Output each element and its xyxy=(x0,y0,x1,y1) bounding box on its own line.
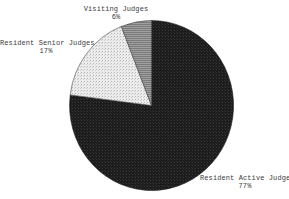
label-visiting-pct: 6% xyxy=(76,13,156,21)
label-senior-name: Resident Senior Judges xyxy=(0,39,92,47)
label-visiting-name: Visiting Judges xyxy=(76,5,156,13)
label-visiting-judges: Visiting Judges 6% xyxy=(76,5,156,21)
label-senior-pct: 17% xyxy=(0,47,92,55)
pie-chart-svg xyxy=(0,0,289,199)
pie-chart: Visiting Judges 6% Resident Senior Judge… xyxy=(0,0,289,199)
label-active-name: Resident Active Judges xyxy=(200,174,289,182)
label-resident-active-judges: Resident Active Judges 77% xyxy=(200,174,289,190)
label-active-pct: 77% xyxy=(200,182,289,190)
label-resident-senior-judges: Resident Senior Judges 17% xyxy=(0,39,92,55)
